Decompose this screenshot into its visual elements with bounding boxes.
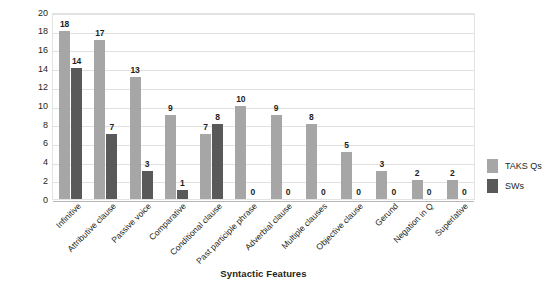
x-axis-title: Syntactic Features (52, 268, 475, 279)
bar-group: 50 (341, 14, 364, 199)
chart-legend: TAKS QsSWs (487, 156, 553, 196)
bar-value-label: 18 (54, 20, 76, 29)
legend-item: SWs (487, 176, 553, 196)
bar-value-label: 9 (265, 104, 287, 113)
bar-value-label: 14 (66, 57, 88, 66)
bar-value-label: 0 (277, 188, 299, 197)
bar (130, 77, 141, 199)
bar-value-label: 9 (159, 104, 181, 113)
bar-group: 100 (235, 14, 258, 199)
bar-group: 90 (271, 14, 294, 199)
bar-value-label: 0 (348, 188, 370, 197)
bar-value-label: 3 (371, 160, 393, 169)
bar-group: 80 (306, 14, 329, 199)
bar-value-label: 8 (207, 113, 229, 122)
y-tick-label: 8 (14, 121, 48, 130)
bar-value-label: 10 (230, 95, 252, 104)
plot-area: 18141771339178100908050302020 (52, 13, 475, 200)
bar-value-label: 2 (406, 169, 428, 178)
bar-value-label: 0 (383, 188, 405, 197)
bar (177, 190, 188, 199)
y-tick-label: 10 (14, 102, 48, 111)
bar-group: 133 (130, 14, 153, 199)
bar-value-label: 3 (136, 160, 158, 169)
bar-value-label: 0 (453, 188, 475, 197)
bar-chart: Occurences 20181614121086420 18141771339… (0, 0, 554, 294)
bar (94, 40, 105, 199)
bar-value-label: 7 (101, 123, 123, 132)
bar (71, 68, 82, 199)
bar-value-label: 0 (312, 188, 334, 197)
bar-group: 1814 (59, 14, 82, 199)
y-axis-tick-labels: 20181614121086420 (12, 13, 48, 200)
y-tick-label: 14 (14, 65, 48, 74)
bar-value-label: 2 (441, 169, 463, 178)
bar-group: 78 (200, 14, 223, 199)
bar (235, 106, 246, 200)
y-tick-label: 18 (14, 27, 48, 36)
bar (271, 115, 282, 199)
bar-value-label: 17 (89, 29, 111, 38)
bar (142, 171, 153, 199)
legend-swatch (487, 179, 498, 193)
bar (200, 134, 211, 199)
bar-value-label: 1 (171, 179, 193, 188)
y-tick-label: 16 (14, 46, 48, 55)
bar-value-label: 0 (418, 188, 440, 197)
y-tick-label: 4 (14, 158, 48, 167)
y-tick-label: 12 (14, 83, 48, 92)
y-tick-label: 0 (14, 196, 48, 205)
bar-value-label: 8 (300, 113, 322, 122)
y-tick-label: 2 (14, 177, 48, 186)
bar-value-label: 0 (242, 188, 264, 197)
legend-label: SWs (505, 181, 524, 191)
bar-value-label: 5 (336, 141, 358, 150)
bar (106, 134, 117, 199)
bar (212, 124, 223, 199)
y-tick-label: 20 (14, 9, 48, 18)
bar-group: 177 (94, 14, 117, 199)
bar-value-label: 13 (124, 66, 146, 75)
legend-swatch (487, 159, 498, 173)
bar (59, 31, 70, 199)
x-axis-tick-labels: InfinitiveAttributive clausePassive voic… (52, 201, 475, 263)
bar-group: 30 (376, 14, 399, 199)
legend-label: TAKS Qs (505, 161, 542, 171)
y-tick-label: 6 (14, 139, 48, 148)
bar-group: 20 (412, 14, 435, 199)
bar-group: 91 (165, 14, 188, 199)
bar-group: 20 (447, 14, 470, 199)
legend-item: TAKS Qs (487, 156, 553, 176)
